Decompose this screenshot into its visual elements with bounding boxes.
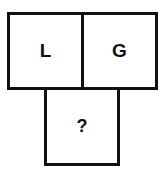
puzzle-cell-bottom-unknown: ? [44, 87, 120, 166]
puzzle-cell-top-left: L [7, 12, 84, 90]
cell-letter: G [112, 40, 127, 62]
question-mark: ? [77, 116, 88, 137]
cell-letter: L [40, 40, 52, 62]
puzzle-cell-top-right: G [81, 12, 158, 90]
